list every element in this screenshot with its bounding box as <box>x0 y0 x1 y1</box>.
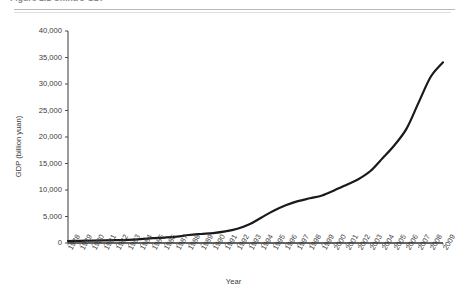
x-tick-label: 1989 <box>199 233 215 252</box>
x-tick-label: 1988 <box>186 233 202 252</box>
x-tick-label: 1978 <box>66 233 82 252</box>
x-tick-label-layer: 1978197919801981198219831984198519861987… <box>0 0 467 294</box>
figure-root: Figure 1.1 China's GDP 05,00010,00015,00… <box>0 0 467 294</box>
y-axis-title: GDP (billion yuan) <box>14 87 23 207</box>
x-axis-title: Year <box>0 277 467 286</box>
x-tick-label: 2009 <box>441 233 457 252</box>
x-tick-label: 1999 <box>320 233 336 252</box>
